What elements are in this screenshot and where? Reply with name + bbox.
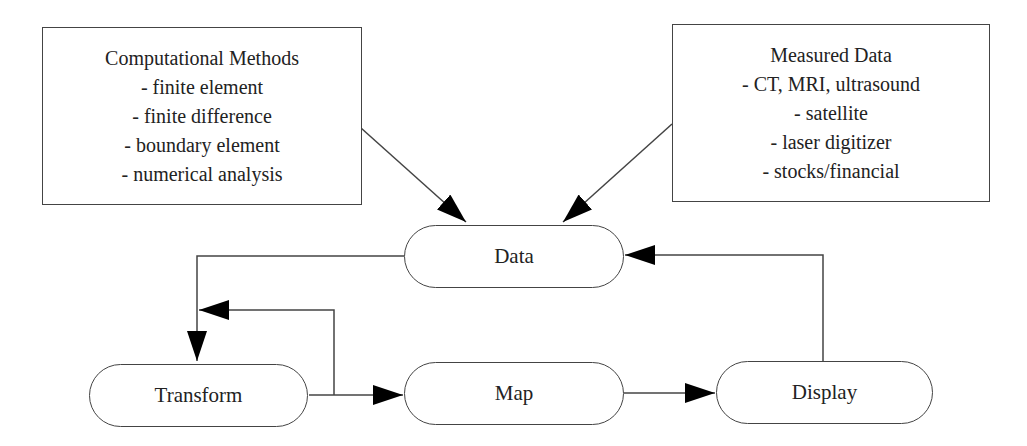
arrow-measured-to-data [563,124,672,222]
display-node-label: Display [792,380,857,405]
arrow-computational-to-data [361,128,466,222]
display-node: Display [716,361,933,424]
measured-data-title: Measured Data [770,41,892,70]
computational-item: - boundary element [124,131,280,160]
map-node: Map [404,362,624,425]
map-node-label: Map [495,381,534,406]
measured-item: - laser digitizer [770,128,891,157]
transform-node-label: Transform [155,383,243,408]
computational-item: - numerical analysis [121,160,282,189]
computational-methods-box: Computational Methods - finite element -… [42,27,362,205]
computational-item: - finite difference [132,102,272,131]
measured-data-box: Measured Data - CT, MRI, ultrasound - sa… [672,24,990,202]
arrow-data-to-transform [197,256,404,361]
computational-methods-title: Computational Methods [105,44,299,73]
measured-item: - satellite [794,99,868,128]
arrow-display-to-data [625,255,823,361]
data-node-label: Data [494,244,534,269]
computational-item: - finite element [141,73,263,102]
measured-item: - stocks/financial [762,157,899,186]
transform-node: Transform [89,364,308,427]
measured-item: - CT, MRI, ultrasound [742,70,920,99]
data-node: Data [404,225,624,288]
